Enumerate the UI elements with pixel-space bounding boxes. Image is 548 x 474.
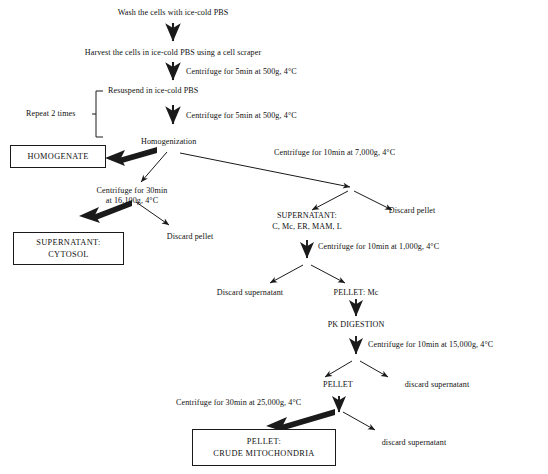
connector-spin1000-to-discard-supernatant [270, 265, 303, 283]
step-centrifuge-25000g: Centrifuge for 30min at 25,000g, 4°C [176, 398, 301, 409]
box-supernatant-cytosol-line1: SUPERNATANT: [36, 237, 100, 249]
step-harvest-cells: Harvest the cells in ice-cold PBS using … [85, 48, 261, 59]
step-centrifuge-500g-first: Centrifuge for 5min at 500g, 4°C [186, 67, 297, 78]
box-pellet-crude-mitochondria[interactable]: PELLET: CRUDE MITOCHONDRIA [192, 429, 336, 466]
repeat-bracket [92, 91, 103, 137]
node-pellet: PELLET [323, 380, 353, 391]
step-discard-pellet-right: Discard pellet [389, 206, 436, 217]
connector-spin7000-to-discard-pellet [354, 191, 392, 210]
box-homogenate[interactable]: HOMOGENATE [10, 145, 106, 168]
step-discard-supernatant-1: Discard supernatant [217, 288, 283, 299]
connector-homogenization-to-spin16100 [141, 152, 167, 182]
step-centrifuge-16100g-line2: at 16,100g, 4°C [106, 196, 158, 207]
step-discard-pellet-left: Discard pellet [167, 232, 214, 243]
step-wash-cells: Wash the cells with ice-cold PBS [118, 8, 229, 19]
connector-spin15000-to-discard-supernatant [360, 361, 388, 377]
box-supernatant-cytosol-line2: CYTOSOL [48, 249, 89, 261]
connector-homogenization-to-homogenate [105, 147, 157, 166]
node-pellet-mc: PELLET: Mc [334, 288, 379, 299]
step-centrifuge-16100g-line1: Centrifuge for 30min [97, 186, 168, 197]
node-supernatant-mix-line1: SUPERNATANT: [277, 211, 337, 222]
step-centrifuge-1000g: Centrifuge for 10min at 1,000g, 4°C [318, 242, 439, 253]
step-centrifuge-500g-second: Centrifuge for 5min at 500g, 4°C [186, 111, 297, 122]
step-homogenization: Homogenization [141, 137, 196, 148]
step-centrifuge-7000g: Centrifuge for 10min at 7,000g, 4°C [274, 148, 395, 159]
step-discard-supernatant-2: discard supernatant [405, 380, 470, 391]
step-centrifuge-15000g: Centrifuge for 10min at 15,000g, 4°C [368, 340, 493, 351]
flowchart-canvas: Wash the cells with ice-cold PBS Harvest… [0, 0, 548, 474]
node-pk-digestion: PK DIGESTION [328, 320, 385, 331]
connector-spin25000-to-discard-supernatant [343, 412, 375, 430]
step-resuspend-pbs: Resuspend in ice-cold PBS [108, 86, 198, 97]
connector-spin7000-to-supernatant [312, 191, 348, 210]
box-homogenate-label: HOMOGENATE [27, 151, 88, 163]
step-discard-supernatant-3: discard supernatant [382, 438, 447, 449]
connector-spin15000-to-pellet [325, 361, 352, 377]
box-crude-mito-line2: CRUDE MITOCHONDRIA [213, 448, 314, 460]
label-repeat-2-times: Repeat 2 times [26, 109, 76, 120]
box-supernatant-cytosol[interactable]: SUPERNATANT: CYTOSOL [13, 232, 124, 265]
connector-spin1000-to-pellet-mc [311, 265, 345, 283]
node-supernatant-mix-line2: C, Mc, ER, MAM, L [272, 222, 342, 233]
box-crude-mito-line1: PELLET: [247, 436, 281, 448]
